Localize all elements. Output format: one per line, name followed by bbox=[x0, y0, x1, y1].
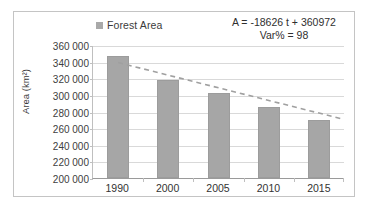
x-axis-tick-label-2000: 2000 bbox=[142, 182, 192, 194]
bar-slot bbox=[244, 46, 294, 178]
x-axis-tick-label-1990: 1990 bbox=[92, 182, 142, 194]
trendline-equation-annotation: A = -18626 t + 360972 Var% = 98 bbox=[210, 16, 358, 42]
y-axis-tick-label: 320 000 bbox=[53, 74, 89, 85]
bar-2005[interactable] bbox=[208, 93, 230, 178]
bar-slot bbox=[193, 46, 243, 178]
y-axis-tick-label: 220 000 bbox=[53, 157, 89, 168]
y-axis-tick-label: 340 000 bbox=[53, 57, 89, 68]
bar-slot bbox=[93, 46, 143, 178]
bar-series-forest-area bbox=[93, 46, 344, 178]
y-axis-tick-label: 360 000 bbox=[53, 41, 89, 52]
bar-slot bbox=[143, 46, 193, 178]
y-axis-tick-label: 240 000 bbox=[53, 140, 89, 151]
bar-1990[interactable] bbox=[107, 56, 129, 178]
gridline bbox=[93, 179, 344, 180]
equation-line: A = -18626 t + 360972 bbox=[210, 16, 358, 29]
x-axis-tick-label-2005: 2005 bbox=[193, 182, 243, 194]
plot-area: 360 000340 000320 000300 000280 000260 0… bbox=[92, 46, 344, 179]
y-axis-tick-mark bbox=[90, 179, 93, 180]
y-axis-tick-label: 300 000 bbox=[53, 90, 89, 101]
chart-container: Forest Area A = -18626 t + 360972 Var% =… bbox=[13, 11, 355, 197]
bar-2010[interactable] bbox=[258, 107, 280, 178]
legend-swatch-forest-area bbox=[96, 22, 103, 29]
x-axis-tick-labels: 19902000200520102015 bbox=[92, 182, 344, 194]
y-axis-tick-label: 200 000 bbox=[53, 174, 89, 185]
variance-line: Var% = 98 bbox=[210, 29, 358, 42]
bar-2000[interactable] bbox=[157, 80, 179, 178]
bar-slot bbox=[294, 46, 344, 178]
y-axis-title: Area (km²) bbox=[20, 57, 31, 127]
legend-label-forest-area: Forest Area bbox=[107, 19, 162, 31]
bar-2015[interactable] bbox=[308, 120, 330, 178]
y-axis-tick-label: 280 000 bbox=[53, 107, 89, 118]
x-axis-tick-label-2015: 2015 bbox=[294, 182, 344, 194]
chart-legend: Forest Area bbox=[96, 19, 162, 31]
x-axis-tick-label-2010: 2010 bbox=[243, 182, 293, 194]
plot-area-wrapper: 360 000340 000320 000300 000280 000260 0… bbox=[92, 46, 344, 179]
y-axis-tick-label: 260 000 bbox=[53, 124, 89, 135]
